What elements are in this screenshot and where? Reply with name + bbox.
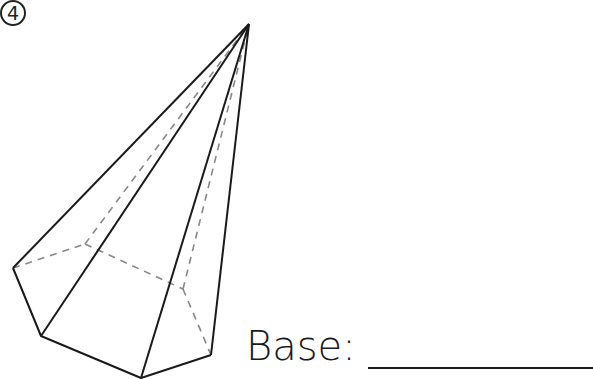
visible-edges xyxy=(13,24,249,378)
base-label: Base: xyxy=(246,326,356,366)
hidden-edges xyxy=(13,24,249,355)
base-answer-blank[interactable] xyxy=(368,367,593,369)
